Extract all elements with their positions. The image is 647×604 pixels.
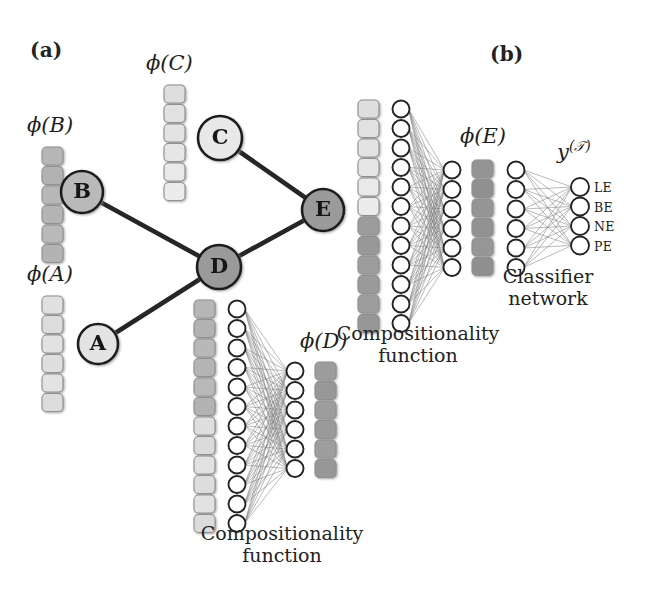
composition-network-E-input-units-node [393,296,410,313]
phi-E-label-text: ϕ(E) [460,124,506,148]
composition-network-D-output-units-node [287,382,304,399]
input-stack-BA [194,300,215,533]
composition-network-D-output-units-node [287,441,304,458]
composition-network-E-connections [409,109,445,324]
phi-C-vector-cell [164,124,185,142]
composition-network-E-input-units-node [393,257,410,274]
composition-network-E-output-units-node [444,259,461,276]
phi-B-label-text: ϕ(B) [27,113,73,137]
phi-B-vector-cell [42,186,63,204]
composition-network-E-input-units [393,101,410,333]
composition-network-D-input-units-node [229,359,246,376]
phi-E-vector [472,160,493,276]
panel-label-b: (b) [490,42,524,66]
composition-network-D-output-units-node [287,402,304,419]
phi-C-vector-cell [164,85,185,103]
phi-A-vector [42,296,63,412]
classifier-network-classifier-input-units-node [508,240,525,257]
composition-network-E-output-units [444,162,461,277]
class-label-2: NE [594,219,615,234]
phi-B-vector-cell [42,206,63,224]
tree-node-a-label: A [89,330,107,355]
phi-C-label-text: ϕ(C) [146,51,193,75]
caption-composition-E-line1: Compositionality [337,322,500,344]
composition-network-D-input-units-node [229,320,246,337]
classifier-network-classifier-output-units-node [571,178,589,196]
composition-network-D-input-units-node [229,437,246,454]
composition-network-D-input-units-node [229,496,246,513]
phi-A-vector-cell [42,335,63,353]
input-stack-BA-cell [194,320,215,338]
panel-label-a: (a) [30,38,63,62]
classifier-network-weights [524,170,573,268]
composition-network-D-input-units [229,301,246,533]
composition-network-D-output-units-node [287,421,304,438]
tree-node-c[interactable]: C [198,116,242,160]
composition-network-E-input-units-node [393,140,410,157]
caption-classifier-line1: Classifier [503,265,594,287]
tree-node-e[interactable]: E [302,189,344,231]
classifier-output-label-base: y [557,140,569,164]
classifier-network-classifier-output-units-node [571,237,589,255]
phi-A-vector-cell [42,355,63,373]
classifier-network-classifier-output-units [571,178,589,255]
caption-composition-E-line2: function [337,344,500,366]
input-stack-CD-cell [358,276,379,294]
caption-composition-D: Compositionality function [201,522,364,566]
phi-D-vector-cell [315,440,336,458]
classifier-network-weights-edge [524,226,573,268]
composition-network-E-input-units-node [393,237,410,254]
composition-network-D-output-units-node [287,363,304,380]
classifier-network-classifier-input-units-node [508,162,525,179]
phi-D-vector-cell [315,382,336,400]
input-stack-BA-cell [194,378,215,396]
composition-network-D-input-units-node [229,476,246,493]
composition-network-D-weights-edge [245,309,288,371]
phi-B-vector-cell [42,147,63,165]
composition-network-D-weights [245,309,288,524]
composition-network-E-input-units-node [393,198,410,215]
composition-network-E-weights [409,109,445,324]
tree-node-a[interactable]: A [78,324,118,364]
tree-edge-B-D [82,192,219,267]
classifier-network-classifier-input-units-node [508,201,525,218]
composition-network-D-output-units [287,363,304,478]
composition-network-E-input-units-node [393,276,410,293]
composition-network-D-input-units-node [229,379,246,396]
input-stack-CD-cell [358,120,379,138]
composition-network-D-output-units-node [287,460,304,477]
classifier-network-classifier-input-units-node [508,220,525,237]
phi-C-vector [164,85,185,201]
composition-network-D-weights-edge [245,368,288,372]
input-stack-CD-cell [358,139,379,157]
phi-D-vector-cell [315,401,336,419]
tree-node-b-label: B [73,178,91,203]
phi-D-vector [315,362,336,478]
input-stack-CD-cell [358,159,379,177]
classifier-network-connections [524,170,573,268]
input-stack-CD-cell [358,256,379,274]
input-stack-CD-cell [358,295,379,313]
composition-network-D-input-units-node [229,340,246,357]
phi-C-vector-cell [164,163,185,181]
classifier-network-weights-edge [524,187,573,190]
input-stack-BA-cell [194,417,215,435]
composition-network-D-input-units-node [229,301,246,318]
input-stack-CD [358,100,379,333]
phi-B-vector-cell [42,167,63,185]
tree-node-d-label: D [210,253,228,278]
input-stack-BA-cell [194,495,215,513]
phi-E-vector-cell [472,238,493,256]
tree-node-b[interactable]: B [61,171,103,213]
phi-A-vector-cell [42,394,63,412]
classifier-output-label: y(𝒯) [557,138,591,164]
input-stack-BA-cell [194,359,215,377]
input-stack-CD-cell [358,198,379,216]
tree-node-e-label: E [315,196,331,221]
phi-E-vector-cell [472,180,493,198]
class-label-0: LE [594,180,612,195]
tree-node-d[interactable]: D [197,245,241,289]
caption-composition-E: Compositionality function [337,322,500,366]
phi-C-vector-cell [164,183,185,201]
phi-C-vector-cell [164,105,185,123]
